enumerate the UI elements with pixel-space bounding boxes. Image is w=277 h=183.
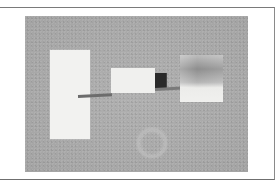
- caption-fragment: [0, 0, 277, 4]
- figure-photo: [25, 16, 248, 172]
- right-shaded-card: [180, 55, 223, 102]
- dark-cube: [155, 73, 166, 88]
- middle-block: [111, 68, 155, 93]
- rod-left: [78, 93, 112, 98]
- transparent-ring: [137, 128, 167, 158]
- rod-right: [155, 87, 182, 91]
